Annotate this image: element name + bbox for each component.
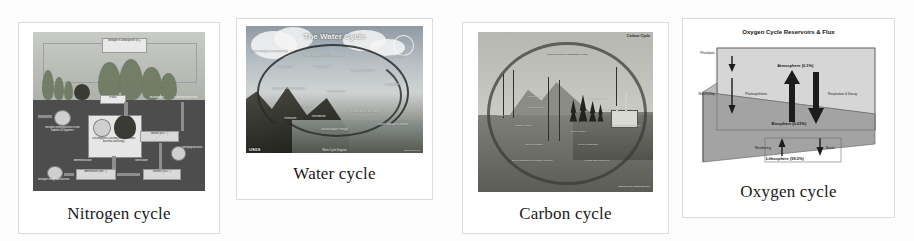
flow-arrow [616,67,617,105]
label-nitrates: Nitrites (NO₂⁻) [140,131,180,142]
panel-oxygen-cycle[interactable]: Oxygen Cycle Reservoirs & Flux [682,18,895,218]
label-evaporation: Evaporation [375,83,410,91]
label-assimilation: Assimilation [140,96,174,107]
label-mining: Mining [489,115,514,125]
carbon-cycle-title: Carbon Cycle [627,34,650,38]
label-root-respiration: Root respiration [517,144,552,154]
label-ocean-uptake: Ocean uptake [559,131,598,141]
label-sublimation: Sublimation [269,65,301,73]
label-biosphere-reservoir: Biosphere (0.01%) [772,121,807,126]
label-surface-runoff: Surface runoff [317,90,356,98]
label-photosynthesis: Photosynthesis [517,96,556,106]
panel-caption-nitrogen: Nitrogen cycle [67,204,170,224]
water-cycle-diagram: The Water Cycle Water storage in ice and… [246,26,423,153]
nitrogen-cycle-diagram: Nitrogen in atmosphere (N₂) Plants Assim… [33,32,205,191]
label-infiltration: Infiltration [274,117,306,125]
plant-shape [42,70,54,100]
flow-arrow [181,102,184,131]
label-ammonium: Ammonium (NH₄⁺) [76,169,116,180]
panel-nitrogen-cycle[interactable]: Nitrogen in atmosphere (N₂) Plants Assim… [18,22,220,234]
label-atmosphere-reservoir: Atmosphere (0.1%) [777,63,813,68]
label-ammonification: Ammonification [67,159,98,167]
label-nitrogen-atmosphere: Nitrogen in atmosphere (N₂) [102,38,147,52]
label-plant-respiration: Plant respiration [520,107,552,117]
diagram-footer: Water Cycle Diagram [246,149,423,152]
panel-caption-oxygen: Oxygen cycle [740,182,836,202]
flow-arrow [38,115,52,118]
label-evapotranspiration: Evapotranspiration [340,69,386,77]
diagram-credit: Natural Science [404,149,421,152]
plant-shape [54,77,64,101]
label-ice-snow-storage: Water storage in ice and snow [250,50,289,60]
oxygen-cycle-diagram: Oxygen Cycle Reservoirs & Flux [695,26,883,172]
water-cycle-title: The Water Cycle [246,32,423,41]
label-organic-carbon: Organic carbon [506,125,541,135]
bacteria-icon [93,119,110,137]
flow-arrow [117,173,139,176]
diagram-credit: Carbon Cycle Natural Science [618,186,650,189]
fungi-icon [114,115,136,139]
label-lithosphere-reservoir: Lithosphere (99.5%) [766,156,804,161]
label-decay-organisms: Decay organisms [569,144,608,154]
label-atmosphere-storage: Water storage in the atmosphere [292,54,356,63]
label-atmospheric-co2: Carbon dioxide in atmosphere (CO₂) [541,54,594,68]
animal-shape [74,84,89,100]
flow-arrow [503,74,504,119]
flow-arrow [64,173,74,176]
label-photolysis: Photolysis [700,51,715,55]
label-nitrites: Nitrates (NO₃⁻) [143,169,181,180]
cycles-figure: Nitrogen in atmosphere (N₂) Plants Assim… [0,0,914,241]
label-factory-emissions: Auto and factory emissions [594,109,640,122]
label-precipitation: Precipitation [306,65,338,73]
label-dead-organisms: Dead organisms and waste products [510,160,556,174]
label-burial: Burial [826,146,834,150]
label-weathering-lower: Weathering [755,146,771,150]
label-fossil-fuels: Fossils and fossil fuels [576,160,618,174]
plant-shape [64,81,73,100]
panel-carbon-cycle[interactable]: Carbon Cycle Carbon dioxide in atmospher… [462,22,669,234]
label-ocean-storage: Water storage in oceans [372,123,414,134]
carbon-cycle-diagram: Carbon Cycle Carbon dioxide in atmospher… [478,32,653,192]
panel-caption-water: Water cycle [293,164,375,184]
label-groundwater-storage: Ground-water storage [313,128,355,138]
panel-water-cycle[interactable]: The Water Cycle Water storage in ice and… [236,18,433,200]
label-photosynthesis: Photosynthesis [745,92,767,96]
label-nitrification: Nitrification [128,159,156,167]
label-decomposers: Decomposers (aerobic and anaerobic bacte… [90,137,138,156]
flow-arrow [124,102,127,116]
label-snowmelt-runoff: Snowmelt runoff to stream [269,87,308,98]
flow-arrow [159,143,162,168]
label-dissolved-co2: Dissolved carbon dioxide [608,125,647,136]
label-groundwater-discharge: Ground-water discharge [345,110,384,120]
label-soil-bacteria: Nitrogen-fixing soil bacteria [36,178,70,191]
flow-arrow [112,156,115,169]
label-root-nodule-bacteria: Nitrogen-fixing bacteria in root nodules… [42,126,83,151]
label-plants: Plants [100,95,126,105]
label-denitrifying-bacteria: Denitrifying bacteria [171,96,202,112]
flow-arrow [513,70,514,118]
label-condensation: Condensation [377,55,416,63]
label-weathering-upper: Weathering [698,92,714,96]
label-spring: Spring [292,105,320,113]
label-nitrifying-bacteria: Nitrifying bacteria [181,146,203,162]
label-respiration-decay: Respiration & Decay [828,92,857,96]
panel-caption-carbon: Carbon cycle [519,204,612,224]
oxygen-block-diagram [695,26,883,172]
